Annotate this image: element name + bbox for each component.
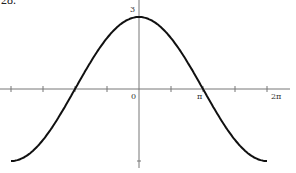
graph: 28. 0 π 2π 3 (0, 0, 296, 173)
plot-area (0, 0, 296, 173)
y-label-3: 3 (130, 5, 135, 14)
x-label-0: 0 (131, 92, 136, 101)
x-label-pi: π (197, 92, 202, 101)
x-label-2pi: 2π (271, 92, 281, 101)
